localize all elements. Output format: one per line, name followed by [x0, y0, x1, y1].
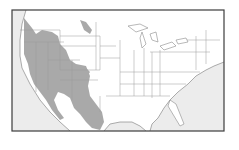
range-map — [0, 0, 239, 150]
map-canvas — [0, 0, 239, 150]
map-layers — [12, 10, 224, 131]
